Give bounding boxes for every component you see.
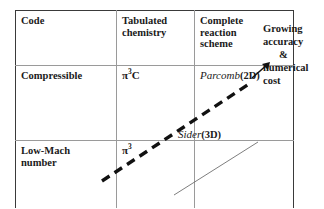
side-caption-growing-accuracy: Growing accuracy & numerical cost: [263, 22, 324, 87]
row-label-low-mach-line1: Low-Mach: [21, 145, 111, 157]
cell-low-mach-tabulated: π3: [117, 141, 195, 209]
table-row-low-mach: Low-Mach number π3: [16, 141, 294, 209]
side-caption-line2: accuracy: [263, 35, 324, 48]
entry-sider-name: Sider: [178, 128, 201, 140]
symbol-exponent: 3: [128, 142, 132, 151]
row-label-low-mach: Low-Mach number: [16, 141, 117, 209]
entry-parcomb-dims: (2D): [240, 70, 260, 81]
header-cell-code: Code: [16, 11, 117, 66]
entry-sider: Sider(3D): [178, 124, 221, 142]
table-header-row: Code Tabulated chemistry Complete reacti…: [16, 11, 294, 66]
row-label-compressible: Compressible: [16, 66, 117, 141]
header-cell-tabulated-chemistry: Tabulated chemistry: [117, 11, 195, 66]
header-label-code: Code: [21, 15, 111, 27]
row-label-compressible-line1: Compressible: [21, 70, 111, 82]
entry-parcomb: Parcomb(2D): [200, 70, 260, 81]
side-caption-line4: numerical: [263, 61, 324, 74]
row-label-low-mach-line2: number: [21, 157, 111, 169]
header-label-tabulated-line2: chemistry: [122, 27, 189, 39]
symbol-pi3: π3: [122, 144, 132, 156]
entry-sider-dims: (3D): [201, 129, 221, 140]
side-caption-line3: &: [263, 48, 324, 61]
symbol-suffix: C: [132, 69, 140, 81]
side-caption-line5: cost: [263, 74, 324, 87]
figure-root: Code Tabulated chemistry Complete reacti…: [0, 0, 324, 208]
side-caption-line1: Growing: [263, 22, 324, 35]
cell-low-mach-complete: [195, 141, 294, 209]
code-classification-table: Code Tabulated chemistry Complete reacti…: [15, 10, 294, 208]
symbol-pi3c: π3C: [122, 69, 140, 81]
entry-parcomb-name: Parcomb: [200, 69, 240, 81]
header-label-tabulated-line1: Tabulated: [122, 15, 189, 27]
table-row-compressible: Compressible π3C Parcomb(2D): [16, 66, 294, 141]
